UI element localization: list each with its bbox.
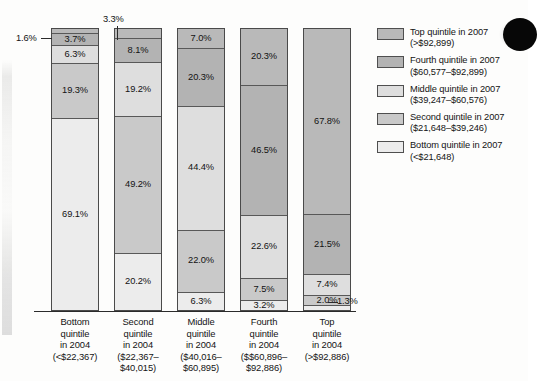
x-axis-label-line: $60,895) [165, 362, 237, 374]
x-axis-label-line: (>$92,886) [291, 351, 363, 363]
x-axis-label-line: in 2004 [165, 339, 237, 351]
x-axis-label-line: in 2004 [228, 339, 300, 351]
legend-label-line: (<$21,648) [410, 152, 502, 163]
x-axis-label-line: Second [102, 316, 174, 328]
segment-middle-quintile-2004-fourth[interactable]: 20.3% [178, 49, 224, 106]
x-axis-labels: Bottomquintilein 2004(<$22,367)Secondqui… [48, 316, 348, 378]
x-axis-line [34, 311, 356, 312]
segment-value-label: 19.2% [125, 85, 151, 94]
segment-middle-quintile-2004-second[interactable]: 22.0% [178, 231, 224, 293]
segment-top-quintile-2004-fourth[interactable]: 21.5% [304, 215, 350, 275]
bar-fourth-quintile-2004[interactable]: 20.3%46.5%22.6%7.5%3.2% [240, 28, 288, 311]
legend-item-fourth[interactable]: Fourth quintile in 2007($60,577–$92,899) [377, 55, 525, 78]
legend-item-middle[interactable]: Middle quintile in 2007($39,247–$60,576) [377, 84, 525, 107]
legend-label-fourth: Fourth quintile in 2007($60,577–$92,899) [410, 55, 500, 78]
bar-middle-quintile-2004[interactable]: 7.0%20.3%44.4%22.0%6.3% [177, 28, 225, 311]
bar-stack: 20.3%46.5%22.6%7.5%3.2% [240, 28, 288, 311]
legend-swatch-bottom [377, 141, 404, 153]
segment-fourth-quintile-2004-second[interactable]: 7.5% [241, 279, 287, 301]
segment-value-label: 8.1% [128, 46, 149, 55]
segment-value-label: 69.1% [62, 210, 88, 219]
segment-top-quintile-2004-top[interactable]: 67.8% [304, 29, 350, 215]
legend-label-line: (>$92,899) [410, 38, 488, 49]
segment-value-label: 44.4% [188, 163, 214, 172]
segment-value-label: 7.5% [254, 285, 275, 294]
segment-second-quintile-2004-fourth[interactable]: 8.1% [115, 39, 161, 62]
segment-second-quintile-2004-middle[interactable]: 19.2% [115, 63, 161, 117]
legend-item-top[interactable]: Top quintile in 2007(>$92,899) [377, 27, 525, 50]
x-axis-label-line: Top [291, 316, 363, 328]
x-axis-label-line: quintile [102, 328, 174, 340]
bar-stack: 67.8%21.5%7.4%2.0%1.3% [303, 28, 351, 311]
segment-bottom-quintile-2004-middle[interactable]: 6.3% [52, 46, 98, 64]
x-axis-label-1: Bottomquintilein 2004(<$22,367) [39, 316, 111, 362]
legend-label-line: ($39,247–$60,576) [410, 95, 500, 106]
segment-value-label: 7.4% [317, 280, 338, 289]
segment-value-label: 6.3% [191, 297, 212, 306]
legend-swatch-top [377, 28, 404, 40]
chart-legend: Top quintile in 2007(>$92,899)Fourth qui… [377, 27, 525, 169]
segment-second-quintile-2004-top[interactable]: 3.3% [115, 29, 161, 39]
x-axis-label-line: (<$22,367) [39, 351, 111, 363]
bar-second-quintile-2004[interactable]: 3.3%8.1%19.2%49.2%20.2% [114, 28, 162, 311]
segment-fourth-quintile-2004-middle[interactable]: 22.6% [241, 216, 287, 279]
plot-area: 1.6%3.7%6.3%19.3%69.1%3.3%8.1%19.2%49.2%… [48, 28, 348, 311]
segment-value-label: 22.0% [188, 256, 214, 265]
segment-second-quintile-2004-bottom[interactable]: 20.2% [115, 254, 161, 310]
x-axis-label-line: Fourth [228, 316, 300, 328]
segment-fourth-quintile-2004-fourth[interactable]: 46.5% [241, 86, 287, 215]
segment-middle-quintile-2004-middle[interactable]: 44.4% [178, 107, 224, 231]
segment-middle-quintile-2004-top[interactable]: 7.0% [178, 29, 224, 49]
segment-second-quintile-2004-second[interactable]: 49.2% [115, 117, 161, 254]
callout-1-3-percent: 1.3% [337, 296, 358, 306]
segment-value-label: 67.8% [314, 117, 340, 126]
callout-1-6-percent-leader-line [41, 38, 52, 39]
x-axis-label-4: Fourthquintilein 2004($$60,896–$92,886) [228, 316, 300, 374]
legend-item-bottom[interactable]: Bottom quintile in 2007(<$21,648) [377, 140, 525, 163]
x-axis-label-line: quintile [165, 328, 237, 340]
x-axis-label-line: ($22,367– [102, 351, 174, 363]
bar-bottom-quintile-2004[interactable]: 1.6%3.7%6.3%19.3%69.1% [51, 28, 99, 311]
legend-label-line: Top quintile in 2007 [410, 27, 488, 38]
legend-label-top: Top quintile in 2007(>$92,899) [410, 27, 488, 50]
segment-value-label: 49.2% [125, 180, 151, 189]
segment-top-quintile-2004-bottom[interactable]: 1.3% [304, 306, 350, 310]
callout-3-3-percent-leader-line [117, 26, 118, 40]
bar-stack: 1.6%3.7%6.3%19.3%69.1% [51, 28, 99, 311]
legend-label-middle: Middle quintile in 2007($39,247–$60,576) [410, 84, 500, 107]
segment-top-quintile-2004-middle[interactable]: 7.4% [304, 275, 350, 296]
segment-bottom-quintile-2004-fourth[interactable]: 3.7% [52, 34, 98, 45]
segment-fourth-quintile-2004-bottom[interactable]: 3.2% [241, 301, 287, 310]
x-axis-label-3: Middlequintilein 2004($40,016–$60,895) [165, 316, 237, 374]
segment-middle-quintile-2004-bottom[interactable]: 6.3% [178, 293, 224, 310]
x-axis-label-5: Topquintilein 2004(>$92,886) [291, 316, 363, 362]
segment-value-label: 22.6% [251, 242, 277, 251]
x-axis-label-line: quintile [39, 328, 111, 340]
x-axis-label-line: quintile [291, 328, 363, 340]
segment-bottom-quintile-2004-second[interactable]: 19.3% [52, 64, 98, 118]
bar-top-quintile-2004[interactable]: 67.8%21.5%7.4%2.0%1.3% [303, 28, 351, 311]
segment-value-label: 7.0% [191, 34, 212, 43]
x-axis-label-line: ($$60,896– [228, 351, 300, 363]
stacked-bar-chart: 1.6%3.7%6.3%19.3%69.1%3.3%8.1%19.2%49.2%… [0, 0, 370, 381]
segment-value-label: 3.7% [65, 35, 86, 44]
segment-value-label: 20.3% [251, 52, 277, 61]
callout-3-3-percent: 3.3% [103, 14, 124, 24]
legend-item-second[interactable]: Second quintile in 2007($21,648–$39,246) [377, 112, 525, 135]
segment-value-label: 46.5% [251, 146, 277, 155]
legend-label-second: Second quintile in 2007($21,648–$39,246) [410, 112, 504, 135]
x-axis-label-line: quintile [228, 328, 300, 340]
segment-bottom-quintile-2004-bottom[interactable]: 69.1% [52, 119, 98, 310]
legend-swatch-fourth [377, 56, 404, 68]
segment-fourth-quintile-2004-top[interactable]: 20.3% [241, 29, 287, 86]
x-axis-label-2: Secondquintilein 2004($22,367–$40,015) [102, 316, 174, 374]
bar-stack: 3.3%8.1%19.2%49.2%20.2% [114, 28, 162, 311]
x-axis-label-line: in 2004 [102, 339, 174, 351]
legend-label-line: ($21,648–$39,246) [410, 123, 504, 134]
legend-label-line: Second quintile in 2007 [410, 112, 504, 123]
x-axis-label-line: ($40,016– [165, 351, 237, 363]
legend-swatch-middle [377, 85, 404, 97]
legend-label-bottom: Bottom quintile in 2007(<$21,648) [410, 140, 502, 163]
segment-value-label: 20.3% [188, 73, 214, 82]
